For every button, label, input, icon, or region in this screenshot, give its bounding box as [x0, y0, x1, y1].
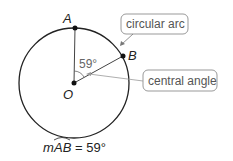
label-a: A [62, 11, 72, 26]
angle-arc [74, 71, 84, 77]
point-o [72, 81, 77, 86]
point-b [121, 54, 126, 59]
caption-arc-name: AB [53, 140, 72, 155]
caption-m: m [43, 140, 54, 155]
callout-central-angle: central angle [148, 74, 217, 88]
point-a [73, 26, 78, 31]
label-b: B [128, 48, 137, 63]
radius-oa [74, 28, 75, 83]
circle-diagram: A B O 59° circular arc central angle m A… [0, 0, 233, 161]
caption-value: = 59° [75, 140, 106, 155]
angle-label: 59° [79, 57, 97, 71]
label-o: O [63, 87, 73, 102]
arc-pointer-line [122, 34, 133, 44]
callout-circular-arc: circular arc [126, 17, 185, 31]
angle-pointer-line [89, 74, 143, 81]
